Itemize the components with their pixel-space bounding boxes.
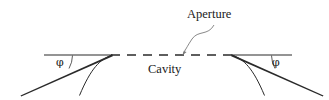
angle-arc-left bbox=[69, 56, 73, 69]
aperture-pointer-arrow bbox=[184, 25, 215, 53]
profile-curve-right bbox=[233, 55, 265, 95]
angle-label-phi-right: φ bbox=[272, 57, 280, 68]
angle-label-phi-left: φ bbox=[56, 57, 64, 68]
wedge-left bbox=[21, 54, 113, 96]
cavity-label: Cavity bbox=[148, 63, 181, 76]
profile-curve-left bbox=[80, 55, 112, 95]
aperture-arrowhead-icon bbox=[182, 49, 186, 56]
cavity-aperture-diagram: Aperture Cavity φ φ bbox=[0, 0, 329, 100]
diagram-canvas bbox=[0, 0, 329, 100]
aperture-label: Aperture bbox=[187, 8, 231, 21]
